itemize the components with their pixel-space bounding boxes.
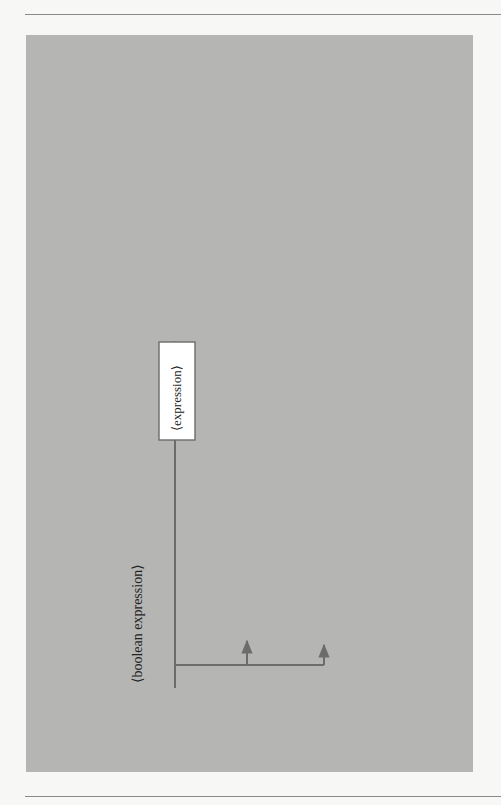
entry-lines: [175, 342, 324, 688]
diagram-title: ⟨boolean expression⟩: [130, 564, 145, 683]
expression-label-left: ⟨expression⟩: [169, 365, 184, 431]
syntax-diagram: ⟨boolean expression⟩ ⟨expression⟩: [0, 0, 501, 805]
row-relational: ⟨expression⟩: [159, 342, 195, 440]
